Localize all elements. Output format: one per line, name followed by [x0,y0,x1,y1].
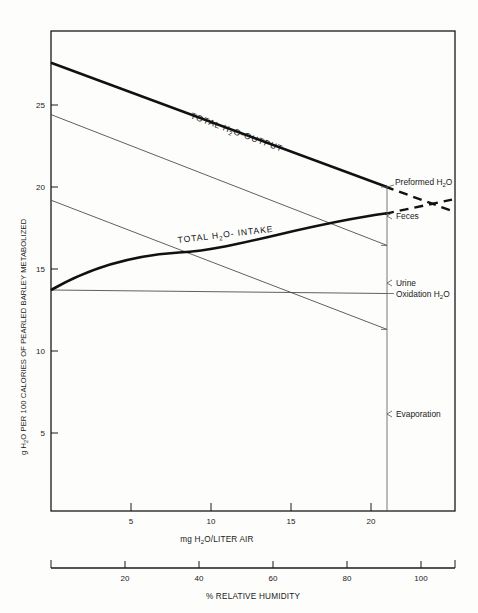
curve-label-output-post: O-OUTPUT [232,126,284,153]
side-label-preformed-post: O [446,177,453,187]
y-axis-ticks [51,105,58,433]
x-axis-title-pre: mg H [180,535,200,544]
y-axis-title-pre: g H [19,443,28,455]
x-tick-label-20: 20 [367,517,376,526]
side-label-oxidation-post: O [443,289,450,299]
y-axis-tick-labels: 25 20 15 10 5 [36,101,45,438]
y-tick-label-20: 20 [36,183,45,192]
x-tick-label-10: 10 [207,517,216,526]
bracket-pointer-preformed [387,185,394,187]
curve-label-total-h2o-intake: TOTAL H2O- INTAKE [177,224,274,247]
bracket-arrow-evaporation [387,411,392,417]
secondary-x-axis: 20 40 60 80 100 % RELATIVE HUMIDITY [51,560,455,601]
series-evaporation-lower-boundary [51,200,387,329]
x-tick-label-5: 5 [129,517,134,526]
x-tick-label-15: 15 [287,517,296,526]
bracket-arrow-urine [387,280,392,286]
series-total-h2o-intake [51,213,387,290]
y-tick-label-15: 15 [36,265,45,274]
y-tick-label-10: 10 [36,347,45,356]
secondary-x-tick-label-80: 80 [343,574,352,583]
plot-frame [51,31,455,511]
secondary-x-tick-label-100: 100 [414,574,428,583]
x-axis-ticks [131,503,371,511]
side-label-feces: Feces [396,211,419,221]
x-axis-title-post: O/LITER AIR [204,535,254,544]
chart-canvas: 25 20 15 10 5 g H2O PER 100 CALORIES OF … [0,0,478,613]
y-tick-label-25: 25 [36,101,45,110]
curve-label-intake-pre: TOTAL H [177,230,219,245]
x-axis-title: mg H2O/LITER AIR [180,535,253,545]
y-axis-title: g H2O PER 100 CALORIES OF PEARLED BARLEY… [19,218,29,455]
side-annotation-labels: Preformed H2O Feces Urine Oxidation H2O … [395,177,453,419]
x-axis-tick-labels: 5 10 15 20 [129,517,376,526]
y-tick-label-5: 5 [41,429,46,438]
side-label-oxidation-h2o: Oxidation H2O [396,289,450,300]
series-oxidation-h2o [51,290,387,294]
side-label-urine: Urine [396,278,416,288]
secondary-x-axis-title: % RELATIVE HUMIDITY [206,592,301,601]
side-label-oxidation-pre: Oxidation H [396,289,440,299]
secondary-x-tick-label-20: 20 [121,574,130,583]
curve-label-output-pre: TOTAL H [189,110,231,134]
side-label-evaporation: Evaporation [396,409,441,419]
side-label-preformed-pre: Preformed H [395,177,442,187]
side-label-preformed-h2o: Preformed H2O [395,177,453,188]
y-axis-title-post: O PER 100 CALORIES OF PEARLED BARLEY MET… [19,218,28,439]
right-bracket-group [381,185,394,511]
series-evaporation-upper-boundary [51,115,387,246]
figure-container: 25 20 15 10 5 g H2O PER 100 CALORIES OF … [0,0,478,613]
secondary-x-tick-label-40: 40 [195,574,204,583]
secondary-x-tick-label-60: 60 [269,574,278,583]
curve-label-total-h2o-output: TOTAL H2O-OUTPUT [189,110,285,155]
